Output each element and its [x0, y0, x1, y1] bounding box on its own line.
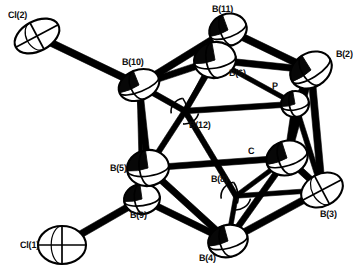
ortep-figure: Cl(2)Cl(1)B(11)B(6)B(2)B(10)PB(12)CB(5)B…	[0, 0, 361, 269]
atom-label-B11: B(11)	[212, 4, 233, 15]
atom-label-B10: B(10)	[122, 57, 144, 68]
atom-Cl1	[38, 226, 86, 264]
ortep-canvas	[0, 0, 361, 269]
atom-label-B9: B(9)	[130, 210, 147, 221]
atom-label-B6: B(6)	[229, 68, 246, 79]
atom-label-Cl1: Cl(1)	[20, 240, 39, 251]
atom-label-P: P	[272, 81, 278, 92]
atom-label-C: C	[248, 146, 254, 157]
atom-label-B8: B(8)	[211, 174, 228, 185]
atom-label-B3: B(3)	[320, 209, 337, 220]
atom-label-B12: B(12)	[189, 120, 211, 131]
atom-label-B5: B(5)	[110, 163, 127, 174]
atom-label-B2: B(2)	[336, 49, 353, 60]
atom-label-B4: B(4)	[199, 253, 216, 264]
atom-label-Cl2: Cl(2)	[8, 10, 27, 21]
